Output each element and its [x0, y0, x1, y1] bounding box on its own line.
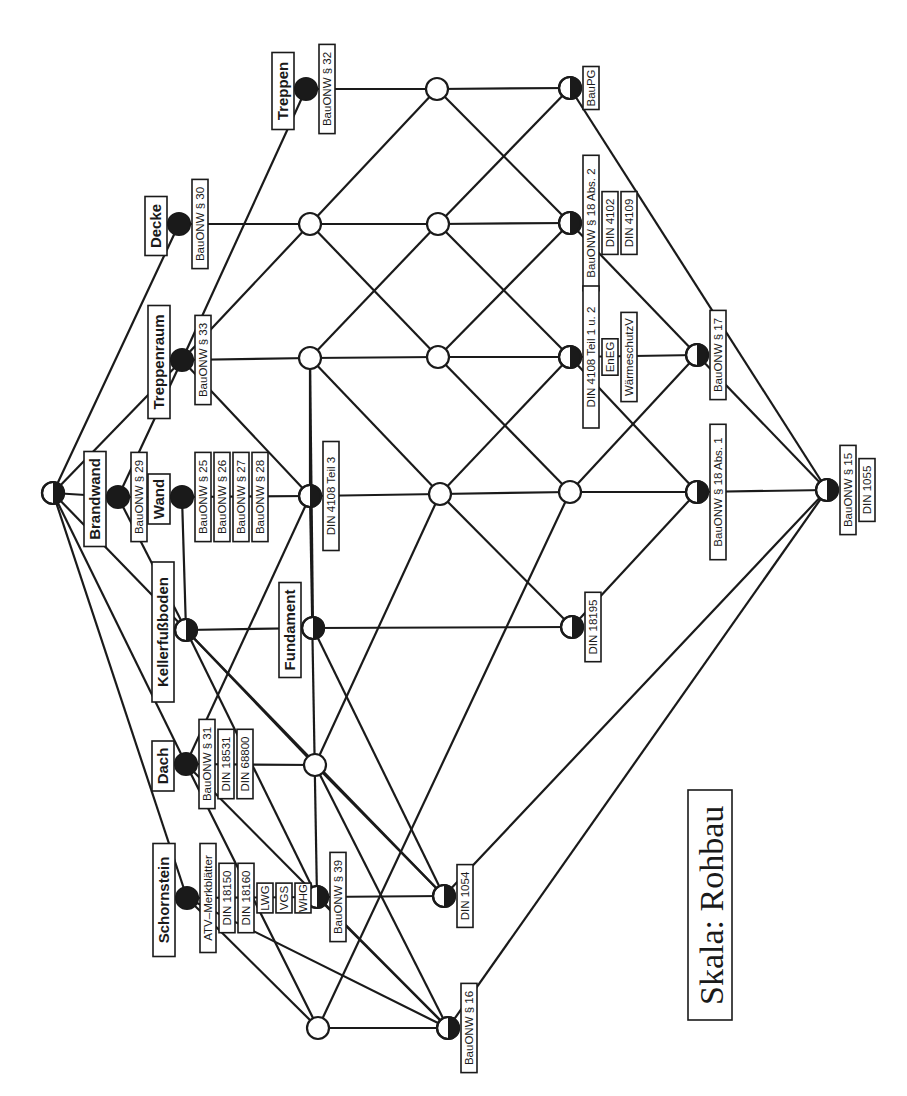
- lattice-edge: [437, 88, 570, 89]
- concept-node-bottom[interactable]: [816, 479, 838, 501]
- concept-node-schornstein[interactable]: [176, 887, 198, 909]
- lattice-edge: [440, 494, 572, 627]
- attribute-label: BauONW § 39: [332, 860, 344, 934]
- attribute-label: BauONW § 30: [194, 187, 206, 261]
- object-label: Fundament: [281, 590, 298, 671]
- concept-node-din1054[interactable]: [433, 885, 455, 907]
- attribute-label: DIN 4108 Teil 3: [325, 457, 337, 535]
- concept-node-bauonw18abs2[interactable]: [559, 212, 581, 234]
- object-label: Treppenraum: [150, 314, 167, 409]
- lattice-labels: BrandwandBauONW § 29WandBauONW § 25BauON…: [84, 44, 875, 1072]
- attribute-label: DIN 1055: [861, 466, 873, 515]
- concept-node-o_310_224[interactable]: [299, 213, 321, 235]
- attribute-label: LWG: [259, 885, 271, 910]
- object-label: Brandwand: [86, 458, 103, 540]
- concept-node-treppen[interactable]: [295, 78, 317, 100]
- attribute-label: DIN 68800: [239, 737, 251, 792]
- attribute-label: BauONW § 17: [712, 318, 724, 392]
- object-label: Wand: [150, 479, 167, 519]
- concept-node-o_437_89[interactable]: [426, 78, 448, 100]
- attribute-label: BauONW § 33: [197, 323, 209, 397]
- lattice-edge: [310, 357, 438, 358]
- lattice-edge: [438, 223, 570, 224]
- attribute-label: VGS: [278, 886, 290, 911]
- concept-node-dach[interactable]: [175, 753, 197, 775]
- attribute-label: BauONW § 28: [254, 460, 266, 534]
- lattice-edge: [318, 492, 570, 1028]
- concept-node-treppenraum[interactable]: [171, 349, 193, 371]
- attribute-label: DIN 18160: [240, 871, 252, 926]
- concept-node-o_438_357[interactable]: [427, 346, 449, 368]
- attribute-label: BauONW § 26: [216, 460, 228, 534]
- attribute-label: EnEG: [604, 342, 616, 373]
- attribute-label: BauONW § 27: [235, 460, 247, 534]
- concept-node-top[interactable]: [42, 482, 64, 504]
- attribute-label: DIN 4109: [623, 199, 635, 248]
- lattice-edge: [444, 490, 827, 896]
- attribute-label: DIN 1054: [459, 871, 471, 920]
- attribute-label: BauONW § 32: [321, 52, 333, 126]
- concept-node-o_570_492[interactable]: [559, 481, 581, 503]
- attribute-label: WHG: [297, 884, 309, 912]
- attribute-label: BauPG: [585, 69, 597, 106]
- attribute-label: BauONW § 15: [842, 453, 854, 527]
- concept-lattice-diagram: BrandwandBauONW § 29WandBauONW § 25BauON…: [0, 0, 907, 1096]
- scale-title: Skala: Rohbau: [688, 790, 732, 1020]
- object-label: Dach: [154, 748, 171, 785]
- attribute-label: DIN 4108 Teil 1 u. 2: [585, 307, 597, 408]
- concept-node-o_310_358[interactable]: [299, 347, 321, 369]
- object-label: Schornstein: [155, 857, 172, 944]
- lattice-edge: [440, 492, 570, 494]
- attribute-label: BauONW § 31: [201, 727, 213, 801]
- concept-node-decke[interactable]: [168, 213, 190, 235]
- concept-node-fundament[interactable]: [302, 617, 324, 639]
- concept-node-bauonw17[interactable]: [686, 344, 708, 366]
- concept-node-din18195[interactable]: [561, 616, 583, 638]
- concept-node-bauonw16[interactable]: [437, 1017, 459, 1039]
- attribute-label: WärmeschutzV: [623, 318, 635, 396]
- attribute-label: BauONW § 25: [197, 460, 209, 534]
- attribute-label: DIN 18150: [221, 871, 233, 926]
- scale-title-text: Skala: Rohbau: [693, 806, 730, 1005]
- object-label: Treppen: [274, 62, 291, 120]
- concept-node-o_438_224[interactable]: [427, 213, 449, 235]
- concept-node-o_440_494[interactable]: [429, 483, 451, 505]
- attribute-label: DIN 18195: [587, 600, 599, 655]
- lattice-edge: [182, 497, 186, 630]
- attribute-label: BauONW § 16: [463, 991, 475, 1065]
- lattice-edge: [310, 496, 317, 897]
- concept-node-baupg[interactable]: [559, 77, 581, 99]
- object-label: Kellerfußboden: [154, 577, 171, 687]
- attribute-label: BauONW § 18 Abs. 1: [712, 437, 724, 546]
- concept-node-brandwand[interactable]: [107, 486, 129, 508]
- concept-node-din4108t3[interactable]: [299, 485, 321, 507]
- lattice-edge: [448, 490, 827, 1028]
- concept-node-o_318_1028[interactable]: [307, 1017, 329, 1039]
- attribute-label: BauONW § 18 Abs. 2: [585, 168, 597, 277]
- lattice-edge: [313, 627, 572, 628]
- concept-node-wand[interactable]: [171, 486, 193, 508]
- lattice-edge: [570, 88, 827, 490]
- attribute-label: BauONW § 29: [133, 460, 145, 534]
- concept-node-bauonw18abs1[interactable]: [686, 481, 708, 503]
- attribute-label: DIN 18531: [220, 737, 232, 792]
- object-label: Decke: [147, 204, 164, 248]
- attribute-label: ATV–Merkblätter: [202, 855, 214, 941]
- concept-node-din4108t12[interactable]: [559, 346, 581, 368]
- concept-node-o_315_765[interactable]: [304, 754, 326, 776]
- attribute-label: DIN 4102: [604, 199, 616, 248]
- concept-node-kellerfussboden[interactable]: [175, 619, 197, 641]
